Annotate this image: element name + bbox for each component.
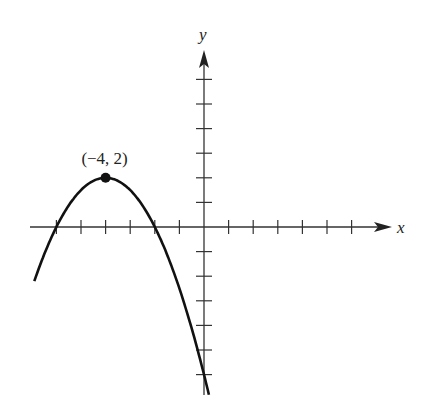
vertex-point: [101, 173, 111, 183]
chart: x y (−4, 2): [0, 0, 430, 418]
parabola-curve: [34, 178, 209, 395]
y-axis-label: y: [197, 25, 207, 44]
vertex-label: (−4, 2): [81, 149, 127, 168]
x-axis-label: x: [396, 218, 405, 237]
